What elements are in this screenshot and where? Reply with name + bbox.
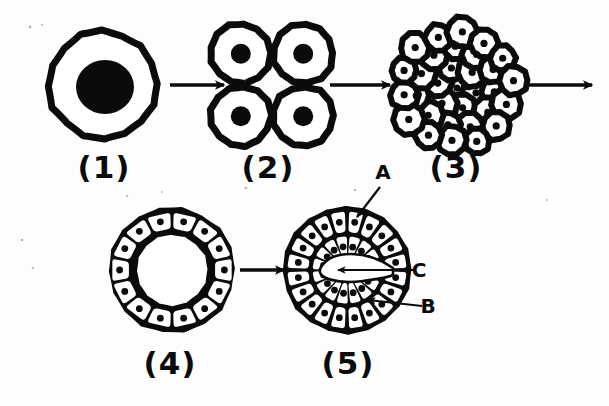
paper-speck-7 (161, 191, 163, 193)
blastula-nucleus-7 (180, 315, 187, 322)
blastula-nucleus-13 (136, 228, 143, 235)
morula-nucleus-29 (459, 28, 466, 35)
paper-speck-9 (546, 199, 548, 201)
morula-nucleus-16 (452, 43, 459, 50)
morula-nucleus-30 (480, 40, 487, 47)
morula-nucleus-3 (459, 104, 466, 111)
blastula-nucleus-14 (157, 218, 164, 225)
ectoderm-nucleus-1 (351, 219, 358, 226)
blastomere-nucleus-2 (293, 44, 313, 64)
morula-nucleus-15 (430, 52, 437, 59)
paper-speck-4 (354, 189, 356, 191)
ectoderm-nucleus-16 (295, 259, 302, 266)
morula-nucleus-27 (412, 44, 419, 51)
ectoderm-nucleus-15 (295, 274, 302, 281)
ectoderm-nucleus-17 (300, 245, 307, 252)
endoderm-nucleus-12 (349, 244, 356, 251)
ectoderm-nucleus-11 (336, 314, 343, 321)
ectoderm-nucleus-9 (366, 310, 373, 317)
endoderm-nucleus-2 (358, 285, 365, 292)
endoderm-nucleus-6 (324, 280, 331, 287)
morula-nucleus-24 (405, 116, 412, 123)
ectoderm-nucleus-13 (309, 301, 316, 308)
blastula-nucleus-2 (201, 228, 208, 235)
blastula-nucleus-10 (121, 288, 128, 295)
ectoderm-nucleus-14 (300, 289, 307, 296)
morula-nucleus-6 (448, 64, 455, 71)
morula-nucleus-13 (413, 92, 420, 99)
ectoderm-nucleus-5 (392, 259, 399, 266)
morula-nucleus-10 (467, 123, 474, 130)
morula-nucleus-28 (435, 34, 442, 41)
caption-morula: (3) (430, 149, 483, 185)
paper-speck-5 (21, 239, 24, 242)
diagram-canvas: ACB (1)(2)(3)(4)(5) (0, 0, 609, 406)
label-b: B (420, 294, 435, 318)
morula-nucleus-2 (472, 89, 479, 96)
blastocoel-cavity (134, 232, 210, 309)
caption-gastrula: (5) (322, 345, 375, 381)
morula-nucleus-26 (400, 67, 407, 74)
ectoderm-nucleus-10 (351, 314, 358, 321)
caption-zygote: (1) (78, 149, 131, 185)
ectoderm-nucleus-12 (321, 310, 328, 317)
blastula-nucleus-12 (121, 245, 128, 252)
blastomere-nucleus-4 (293, 106, 313, 126)
ectoderm-nucleus-7 (387, 289, 394, 296)
blastula-nucleus-6 (201, 305, 208, 312)
blastula-nucleus-8 (157, 315, 164, 322)
ectoderm-nucleus-4 (387, 245, 394, 252)
morula-nucleus-7 (469, 69, 476, 76)
caption-four-cell-stage: (2) (242, 149, 295, 185)
morula-nucleus-11 (444, 121, 451, 128)
morula-nucleus-25 (401, 91, 408, 98)
morula-nucleus-23 (425, 132, 432, 139)
endoderm-nucleus-5 (331, 287, 338, 294)
paper-speck-1 (41, 24, 43, 26)
ectoderm-nucleus-20 (336, 219, 343, 226)
blastula-nucleus-4 (221, 267, 228, 274)
paper-speck-0 (29, 26, 32, 29)
paper-speck-8 (126, 195, 128, 197)
endoderm-nucleus-3 (350, 289, 357, 296)
endoderm-nucleus-4 (340, 290, 347, 297)
morula-nucleus-31 (499, 55, 506, 62)
label-a: A (375, 160, 391, 184)
ectoderm-nucleus-18 (309, 232, 316, 239)
blastomere-nucleus-1 (231, 44, 251, 64)
morula-nucleus-17 (473, 51, 480, 58)
endoderm-nucleus-10 (331, 247, 338, 254)
caption-blastula: (4) (144, 345, 197, 381)
morula-nucleus-8 (491, 88, 498, 95)
morula-nucleus-32 (510, 77, 517, 84)
stage-blastula (110, 208, 234, 332)
paper-speck-6 (32, 267, 34, 269)
label-c: C (412, 258, 427, 282)
ectoderm-nucleus-3 (378, 232, 385, 239)
zygote-nucleus (76, 60, 134, 114)
morula-nucleus-14 (418, 70, 425, 77)
morula-nucleus-12 (425, 112, 432, 119)
paper-speck-3 (245, 187, 248, 190)
blastula-nucleus-5 (216, 288, 223, 295)
morula-nucleus-4 (438, 100, 445, 107)
morula-nucleus-9 (484, 109, 491, 116)
morula-nucleus-18 (490, 66, 497, 73)
ectoderm-nucleus-2 (366, 224, 373, 231)
blastula-nucleus-1 (180, 218, 187, 225)
blastomere-nucleus-3 (231, 106, 251, 126)
morula-nucleus-19 (503, 101, 510, 108)
morula-nucleus-22 (448, 137, 455, 144)
stage-zygote (48, 30, 157, 139)
embryo-development-figure: ACB (1)(2)(3)(4)(5) (0, 0, 609, 406)
blastula-nucleus-9 (136, 305, 143, 312)
morula-nucleus-1 (453, 84, 460, 91)
ectoderm-nucleus-19 (321, 224, 328, 231)
endoderm-nucleus-11 (340, 243, 347, 250)
morula-nucleus-5 (434, 79, 441, 86)
morula-nucleus-21 (473, 138, 480, 145)
blastula-nucleus-3 (216, 245, 223, 252)
morula-nucleus-20 (493, 122, 500, 129)
blastula-nucleus-11 (116, 267, 123, 274)
